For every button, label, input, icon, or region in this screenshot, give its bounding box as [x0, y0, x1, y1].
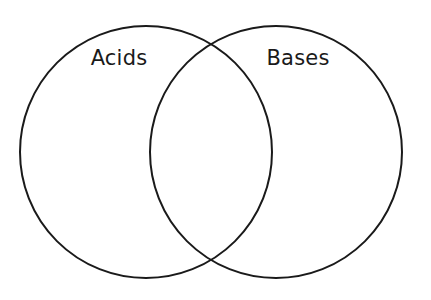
- venn-diagram-canvas: Acids Bases: [0, 0, 431, 300]
- venn-diagram: Acids Bases: [0, 0, 431, 300]
- venn-label-left: Acids: [91, 46, 148, 70]
- venn-label-right: Bases: [266, 46, 329, 70]
- diagram-background: [0, 0, 431, 300]
